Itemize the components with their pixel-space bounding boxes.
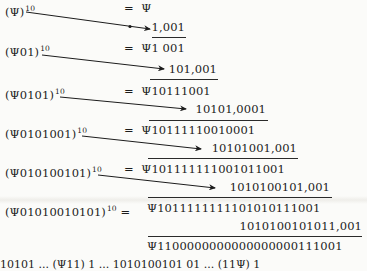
expr-base-1: (Ψ)10 xyxy=(5,2,35,19)
addend-5: 1010100101,001 xyxy=(230,181,330,194)
addend-1: 1,001 xyxy=(152,21,185,34)
cut-off-text-line: 10101 ... (Ψ11) 1 ... 1010100101 01 ... … xyxy=(0,258,260,271)
equals-3: = Ψ10111001 xyxy=(124,85,211,98)
equals-4: = Ψ10111110010001 xyxy=(124,124,255,137)
sum-rule-6 xyxy=(148,236,362,237)
addend-4: 10101001,001 xyxy=(212,142,297,155)
expr-base-2: (Ψ01)10 xyxy=(5,42,50,59)
expr-base-3: (Ψ0101)10 xyxy=(5,85,65,102)
sum-rule-4 xyxy=(148,158,298,159)
arrow-3 xyxy=(60,97,186,109)
arrow-5 xyxy=(98,175,215,188)
addend-6: 1010100101011,001 xyxy=(240,220,362,233)
expr-base-4: (Ψ0101001)10 xyxy=(5,124,87,141)
sum-rule-3 xyxy=(149,120,268,121)
sum-rule-5 xyxy=(148,197,332,198)
addend-3: 10101,0001 xyxy=(195,103,266,116)
final-sum: Ψ1100000000000000000111001 xyxy=(147,240,343,253)
sum-rule-2 xyxy=(150,79,218,80)
arrow-4 xyxy=(82,136,201,149)
expr-base-5: (Ψ010100101)10 xyxy=(5,163,102,180)
expr-base-6: (Ψ01010010101)10 = xyxy=(5,202,130,219)
arrow-2 xyxy=(42,55,164,69)
addend-2: 101,001 xyxy=(169,63,217,76)
equals-5: = Ψ101111111001011001 xyxy=(124,163,285,176)
equals-1: = Ψ xyxy=(124,2,151,15)
sum-rule-1 xyxy=(152,37,186,38)
result-6: Ψ1011111111101010111001 xyxy=(147,202,320,215)
equals-2: = Ψ1 001 xyxy=(124,42,185,55)
